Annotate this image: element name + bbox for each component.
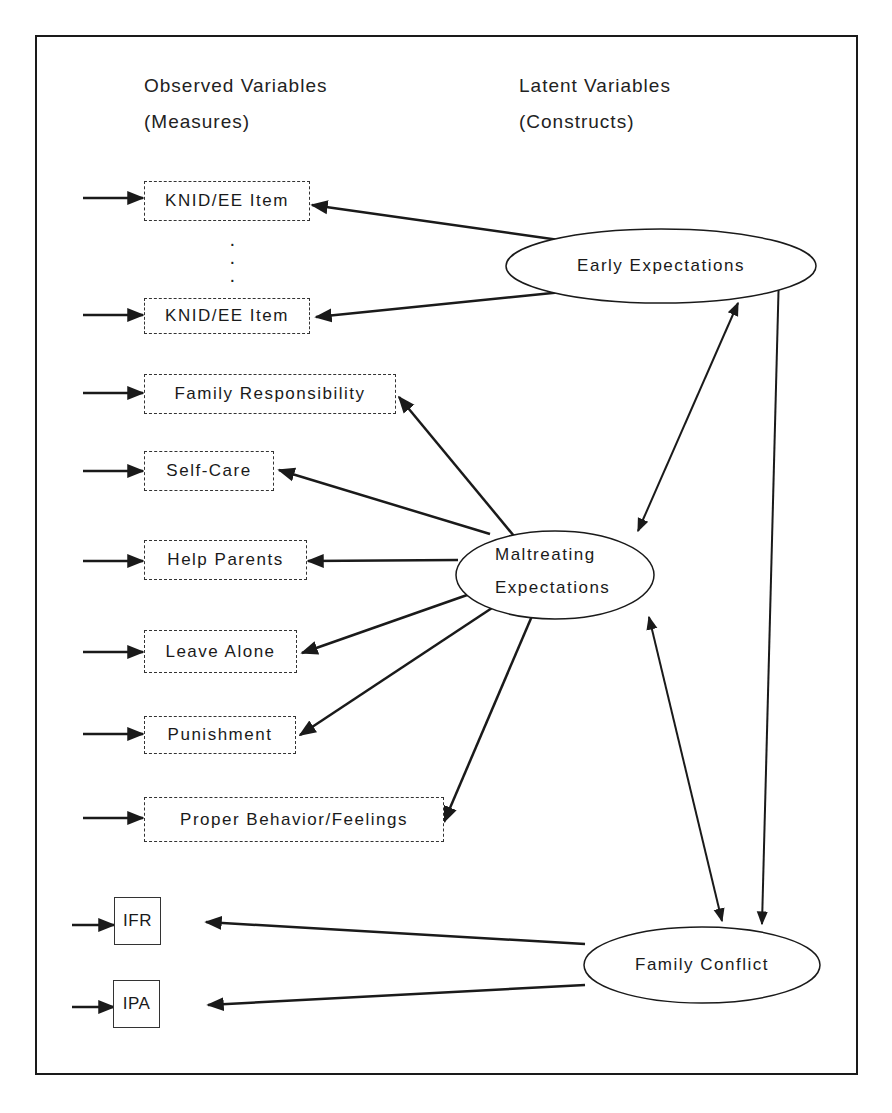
correlation-arrows [638,272,779,924]
observed-knid-item-1: KNID/EE Item [144,181,310,221]
observed-help-parents: Help Parents [144,540,307,580]
observed-leave-alone: Leave Alone [144,630,297,673]
latent-label-maltreating-line1: Maltreating [470,538,640,572]
latent-subheader: (Constructs) [519,111,634,133]
observed-self-care: Self-Care [144,451,274,491]
latent-label-maltreating-line2: Expectations [470,571,640,605]
observed-ifr: IFR [114,897,161,945]
observed-ipa: IPA [113,980,160,1028]
observed-knid-item-2: KNID/EE Item [144,298,310,334]
observed-family-responsibility: Family Responsibility [144,374,396,414]
observed-proper-behavior-feelings: Proper Behavior/Feelings [144,797,444,842]
observed-punishment: Punishment [144,716,296,754]
path-diagram [0,0,892,1113]
latent-label-early-expectations: Early Expectations [520,249,802,283]
observed-header: Observed Variables [144,75,327,97]
ellipsis-dots: · · · [229,234,236,288]
observed-subheader: (Measures) [144,111,250,133]
latent-label-family-conflict: Family Conflict [590,948,814,982]
latent-header: Latent Variables [519,75,671,97]
error-arrows [72,198,143,1007]
